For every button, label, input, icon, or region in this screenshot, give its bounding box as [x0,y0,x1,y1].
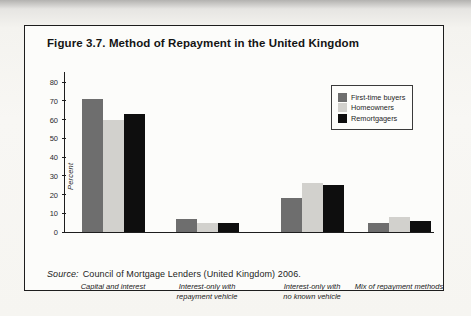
y-tick-mark [62,100,66,101]
x-category-label-line: repayment vehicle [157,292,257,302]
x-category-label-line: Capital and interest [63,282,163,292]
x-category-label-line: Mix of repayment methods [349,282,449,292]
y-tick-mark [62,194,66,195]
source-line: Source:Council of Mortgage Lenders (Unit… [47,269,437,279]
plot-area: Percent 01020304050607080 Capital and in… [64,72,434,233]
y-tick-mark [62,232,66,233]
x-category-label-line: Interest-only with [262,282,362,292]
x-category-label-line: Interest-only with [157,282,257,292]
x-category-label-2: Interest-only withrepayment vehicle [157,282,257,302]
bar-first-time-buyers [176,219,197,232]
bar-group-4 [368,217,431,232]
y-tick-mark [62,119,66,120]
bar-remortgagers [124,114,145,232]
x-category-label-3: Interest-only withno known vehicle [262,282,362,302]
x-category-label-4: Mix of repayment methods [349,282,449,292]
bar-group-2 [176,219,239,232]
y-tick-label: 0 [54,228,58,237]
bar-homeowners [103,120,124,233]
figure-panel: Figure 3.7. Method of Repayment in the U… [24,25,444,291]
figure-title: Figure 3.7. Method of Repayment in the U… [47,37,427,49]
bar-homeowners [389,217,410,232]
y-tick-label: 70 [50,96,58,105]
bar-remortgagers [218,223,239,232]
y-tick-mark [62,213,66,214]
bar-first-time-buyers [368,223,389,232]
x-category-label-line: no known vehicle [262,292,362,302]
y-tick-label: 60 [50,115,58,124]
source-label: Source: [47,269,79,279]
bar-first-time-buyers [82,99,103,232]
y-tick-label: 40 [50,153,58,162]
bar-homeowners [197,223,218,232]
bar-group-1 [82,99,145,232]
x-category-label-1: Capital and interest [63,282,163,292]
y-tick-label: 50 [50,134,58,143]
y-tick-mark [62,175,66,176]
scanned-page: { "figure": { "title": "Figure 3.7. Meth… [0,0,471,316]
y-tick-mark [62,157,66,158]
y-axis-label: Percent [66,163,75,190]
bar-homeowners [302,183,323,232]
bar-group-3 [281,183,344,232]
bar-first-time-buyers [281,198,302,232]
y-tick-mark [62,138,66,139]
y-tick-label: 30 [50,171,58,180]
y-tick-label: 10 [50,209,58,218]
source-text: Council of Mortgage Lenders (United King… [83,269,301,279]
bar-remortgagers [323,185,344,232]
y-tick-mark [62,82,66,83]
y-tick-label: 20 [50,190,58,199]
bar-remortgagers [410,221,431,232]
y-tick-label: 80 [50,78,58,87]
